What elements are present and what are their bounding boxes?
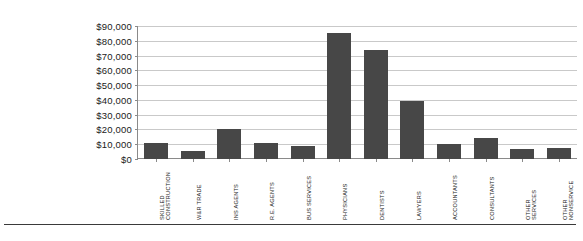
bar bbox=[181, 151, 205, 159]
bar-slot bbox=[248, 26, 285, 159]
x-axis-category-label: ACCOUNTANTS bbox=[452, 162, 458, 220]
bar-chart-figure: $0$10,000$20,000$30,000$40,000$50,000$60… bbox=[0, 0, 583, 241]
bar bbox=[144, 143, 168, 159]
y-axis-tick-label: $20,000 bbox=[62, 124, 132, 135]
y-axis-tick-label: $70,000 bbox=[62, 50, 132, 61]
bar-slot bbox=[175, 26, 212, 159]
y-axis-tick bbox=[135, 159, 138, 160]
bar-slot bbox=[358, 26, 395, 159]
bar bbox=[364, 50, 388, 159]
x-axis-category-labels: SKILLED CONSTRUCTIONW&R TRADEINS AGENTSR… bbox=[138, 162, 577, 220]
page-divider-rule bbox=[4, 224, 576, 225]
x-axis-category-label: BUS SERVICES bbox=[306, 162, 312, 220]
x-axis-category-label: LAWYERS bbox=[416, 162, 422, 220]
y-axis-tick-label: $10,000 bbox=[62, 139, 132, 150]
bar-slot bbox=[321, 26, 358, 159]
bar bbox=[291, 146, 315, 159]
y-axis-tick-label: $80,000 bbox=[62, 35, 132, 46]
bar-slot bbox=[431, 26, 468, 159]
bar-slot bbox=[138, 26, 175, 159]
x-axis-category-label: OTHER NONSERVICE bbox=[562, 162, 575, 220]
x-axis-category-label: W&R TRADE bbox=[196, 162, 202, 220]
bar bbox=[327, 33, 351, 159]
bar bbox=[217, 129, 241, 159]
bar bbox=[254, 143, 278, 159]
bar-slot bbox=[540, 26, 577, 159]
x-axis-category-label: R.E. AGENTS bbox=[269, 162, 275, 220]
x-axis-category-label: OTHER SERVICES bbox=[525, 162, 538, 220]
y-axis-tick-label: $90,000 bbox=[62, 21, 132, 32]
bar-slot bbox=[467, 26, 504, 159]
x-axis-category-label: PHYSICIANS bbox=[342, 162, 348, 220]
x-axis-category-label: CONSULTANTS bbox=[489, 162, 495, 220]
bar-slot bbox=[504, 26, 541, 159]
x-axis-category-label: DENTISTS bbox=[379, 162, 385, 220]
y-axis-tick-label: $40,000 bbox=[62, 94, 132, 105]
bar bbox=[474, 138, 498, 159]
y-axis-tick-label: $50,000 bbox=[62, 80, 132, 91]
bar bbox=[510, 149, 534, 159]
y-axis-tick-label: $60,000 bbox=[62, 65, 132, 76]
y-axis-tick-label: $0 bbox=[62, 154, 132, 165]
bar bbox=[547, 148, 571, 159]
y-axis-tick-labels: $0$10,000$20,000$30,000$40,000$50,000$60… bbox=[62, 26, 132, 159]
bar-series bbox=[138, 26, 577, 159]
bar-slot bbox=[394, 26, 431, 159]
y-axis-tick-label: $30,000 bbox=[62, 109, 132, 120]
bar bbox=[400, 101, 424, 159]
bar-slot bbox=[284, 26, 321, 159]
x-axis-category-label: INS AGENTS bbox=[233, 162, 239, 220]
bar-slot bbox=[211, 26, 248, 159]
bar bbox=[437, 144, 461, 159]
x-axis-category-label: SKILLED CONSTRUCTION bbox=[159, 162, 172, 220]
